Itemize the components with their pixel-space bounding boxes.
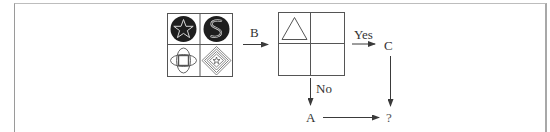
triangle-icon (282, 18, 307, 40)
target-grid (279, 13, 345, 76)
nested-diamonds-star-icon (202, 47, 231, 76)
label-b: B (250, 26, 259, 39)
node-result: ? (386, 111, 392, 124)
square-with-lobes-icon (171, 48, 197, 73)
star-in-circle-icon (171, 16, 197, 42)
label-yes: Yes (354, 28, 373, 41)
flowchart-canvas (0, 0, 550, 132)
s-shape-in-circle-icon (204, 16, 230, 42)
label-no: No (316, 82, 332, 95)
node-a: A (306, 111, 315, 124)
node-c: C (384, 39, 393, 52)
